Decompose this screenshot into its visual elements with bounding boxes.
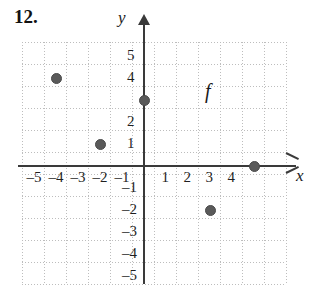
grid-line-horizontal: [22, 152, 286, 153]
data-point: [139, 95, 150, 106]
x-tick-label: 4: [228, 170, 236, 185]
y-tick-label: 4: [127, 70, 135, 85]
x-axis-label: x: [296, 166, 304, 186]
grid-line-horizontal: [22, 64, 286, 65]
x-tick-label: –4: [49, 170, 64, 185]
grid-line-vertical: [264, 42, 265, 284]
grid-line-vertical: [66, 42, 67, 284]
y-tick-label: 2: [127, 114, 135, 129]
grid-line-horizontal: [22, 284, 286, 285]
grid-line-vertical: [154, 42, 155, 284]
y-tick-label: 1: [127, 136, 135, 151]
x-tick-label: 1: [162, 170, 170, 185]
grid-line-horizontal: [22, 196, 286, 197]
y-tick-label: –3: [122, 224, 137, 239]
grid-line-horizontal: [22, 240, 286, 241]
y-tick-label: –1: [122, 180, 137, 195]
grid-line-vertical: [176, 42, 177, 284]
x-tick-label: 2: [184, 170, 192, 185]
y-tick-label: –4: [122, 246, 137, 261]
exercise-number: 12.: [14, 6, 38, 28]
x-tick-label: –5: [27, 170, 42, 185]
grid-line-horizontal: [22, 42, 286, 43]
y-axis-label: y: [118, 8, 126, 28]
data-point: [51, 73, 62, 84]
x-tick-label: –3: [71, 170, 86, 185]
graph-figure: 12. x y f –5–4–3–2–112345421–1–2–3–4–5: [0, 0, 322, 294]
y-axis-arrowhead: [138, 14, 150, 25]
data-point: [205, 205, 216, 216]
grid-line-vertical: [220, 42, 221, 284]
grid-line-horizontal: [22, 218, 286, 219]
grid-line-horizontal: [22, 108, 286, 109]
x-tick-label: –2: [93, 170, 108, 185]
x-axis-arrowhead-upper: [286, 152, 299, 160]
grid-line-vertical: [286, 42, 287, 284]
function-label: f: [205, 80, 211, 103]
data-point: [249, 161, 260, 172]
grid-line-horizontal: [22, 86, 286, 87]
grid-line-vertical: [22, 42, 23, 284]
grid-line-vertical: [198, 42, 199, 284]
y-tick-label: –2: [122, 202, 137, 217]
grid-line-vertical: [88, 42, 89, 284]
grid-line-vertical: [242, 42, 243, 284]
grid-line-vertical: [110, 42, 111, 284]
grid-line-horizontal: [22, 262, 286, 263]
grid-line-vertical: [44, 42, 45, 284]
y-tick-label: 5: [127, 48, 135, 63]
x-tick-label: 3: [206, 170, 214, 185]
grid-line-horizontal: [22, 130, 286, 131]
data-point: [95, 139, 106, 150]
y-tick-label: –5: [122, 268, 137, 283]
y-axis-line: [143, 22, 145, 284]
